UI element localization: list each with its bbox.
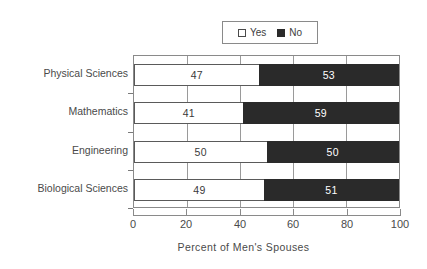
x-axis-tick-label: 20 <box>180 219 192 230</box>
bar-row: 4753 <box>134 64 399 86</box>
bar-value-label: 47 <box>191 70 203 81</box>
x-axis-tick-label: 80 <box>341 219 353 230</box>
bar-value-label: 51 <box>325 185 337 196</box>
x-axis-tick <box>293 209 294 216</box>
open-square-icon <box>238 29 246 37</box>
x-axis-line <box>133 215 400 216</box>
legend-label-yes: Yes <box>250 28 266 38</box>
x-axis-tick <box>240 209 241 216</box>
bar-row: 5050 <box>134 141 399 163</box>
bar-value-label: 59 <box>315 108 327 119</box>
legend-entry-no: No <box>277 28 302 38</box>
bar-segment-yes: 49 <box>134 179 264 201</box>
bar-segment-no: 53 <box>259 64 399 86</box>
y-axis-category-label: Biological Sciences <box>0 183 128 194</box>
bar-value-label: 41 <box>183 108 195 119</box>
stacked-bar-chart: Yes No Physical SciencesMathematicsEngin… <box>0 0 427 269</box>
legend-label-no: No <box>289 28 302 38</box>
y-axis-labels: Physical SciencesMathematicsEngineeringB… <box>0 55 128 208</box>
x-axis-tick-label: 100 <box>391 219 409 230</box>
y-axis-category-label: Physical Sciences <box>0 68 128 79</box>
x-axis-tick <box>186 209 187 216</box>
bar-value-label: 53 <box>323 70 335 81</box>
x-axis-title-text: Percent of Men's Spouses <box>178 242 310 253</box>
bar-segment-yes: 47 <box>134 64 259 86</box>
bar-row: 4951 <box>134 179 399 201</box>
x-axis-tick <box>400 209 401 216</box>
bar-segment-no: 59 <box>243 102 399 124</box>
chart-legend: Yes No <box>222 21 318 44</box>
bar-segment-yes: 41 <box>134 102 243 124</box>
x-axis-tick-label: 0 <box>130 219 136 230</box>
bar-segment-no: 51 <box>264 179 399 201</box>
y-axis-category-label: Mathematics <box>0 106 128 117</box>
y-axis-category-label: Engineering <box>0 145 128 156</box>
bar-value-label: 49 <box>193 185 205 196</box>
filled-square-icon <box>277 29 285 37</box>
legend-entry-yes: Yes <box>238 28 266 38</box>
x-axis-tick <box>347 209 348 216</box>
x-axis-tick-label: 60 <box>287 219 299 230</box>
bar-segment-yes: 50 <box>134 141 267 163</box>
plot-area: 4753415950504951 <box>133 55 400 208</box>
x-axis-title: Percent of Men's Spouses <box>0 242 427 253</box>
bar-value-label: 50 <box>327 147 339 158</box>
x-axis-tick <box>133 209 134 216</box>
bar-value-label: 50 <box>195 147 207 158</box>
bar-segment-no: 50 <box>267 141 400 163</box>
x-axis-tick-label: 40 <box>234 219 246 230</box>
bar-row: 4159 <box>134 102 399 124</box>
